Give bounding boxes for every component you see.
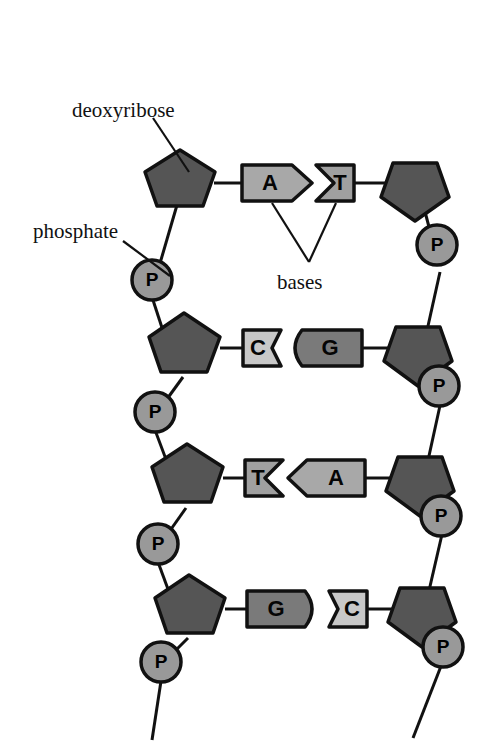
- base-pair-row: C G: [243, 330, 362, 366]
- phosphate-node: P: [132, 260, 172, 300]
- bases-leader-line-left: [272, 203, 309, 262]
- base-letter: G: [267, 596, 284, 621]
- deoxyribose-pentagon: [381, 163, 449, 221]
- phosphate-node: P: [421, 496, 461, 536]
- base-letter: C: [344, 596, 360, 621]
- phosphate-letter: P: [149, 401, 162, 422]
- base-C: C: [243, 330, 281, 366]
- base-A: A: [288, 460, 365, 496]
- base-T: T: [316, 165, 354, 201]
- dna-diagram: P P P P P P: [0, 0, 486, 746]
- phosphate-label: phosphate: [33, 219, 118, 243]
- base-letter: C: [250, 335, 266, 360]
- phosphate-node: P: [141, 642, 181, 682]
- base-connector-lines: [214, 183, 397, 609]
- phosphate-node: P: [423, 627, 463, 667]
- base-G: G: [295, 330, 362, 366]
- base-C: C: [329, 591, 367, 627]
- dna-structure-svg: P P P P P P: [0, 0, 486, 746]
- phosphate-node: P: [419, 366, 459, 406]
- base-G: G: [247, 591, 312, 627]
- base-pair-row: G C: [247, 591, 367, 627]
- bases-leader-line-right: [309, 203, 336, 262]
- base-T: T: [245, 460, 283, 496]
- phosphate-letter: P: [152, 533, 165, 554]
- phosphate-letter: P: [433, 375, 446, 396]
- base-letter: T: [251, 465, 265, 490]
- deoxyribose-label: deoxyribose: [72, 98, 175, 122]
- base-letter: A: [262, 170, 278, 195]
- phosphate-letter: P: [155, 651, 168, 672]
- phosphate-letter: P: [437, 636, 450, 657]
- base-pair-row: A T: [242, 165, 354, 201]
- base-pair-row: T A: [245, 460, 365, 496]
- phosphate-node: P: [417, 225, 457, 265]
- phosphate-letter: P: [431, 234, 444, 255]
- base-letter: T: [333, 170, 347, 195]
- phosphate-node: P: [135, 392, 175, 432]
- base-A: A: [242, 165, 312, 201]
- bases-label: bases: [277, 270, 323, 294]
- base-letter: G: [321, 335, 338, 360]
- phosphate-letter: P: [146, 269, 159, 290]
- base-letter: A: [328, 465, 344, 490]
- phosphate-node: P: [138, 524, 178, 564]
- phosphate-letter: P: [435, 505, 448, 526]
